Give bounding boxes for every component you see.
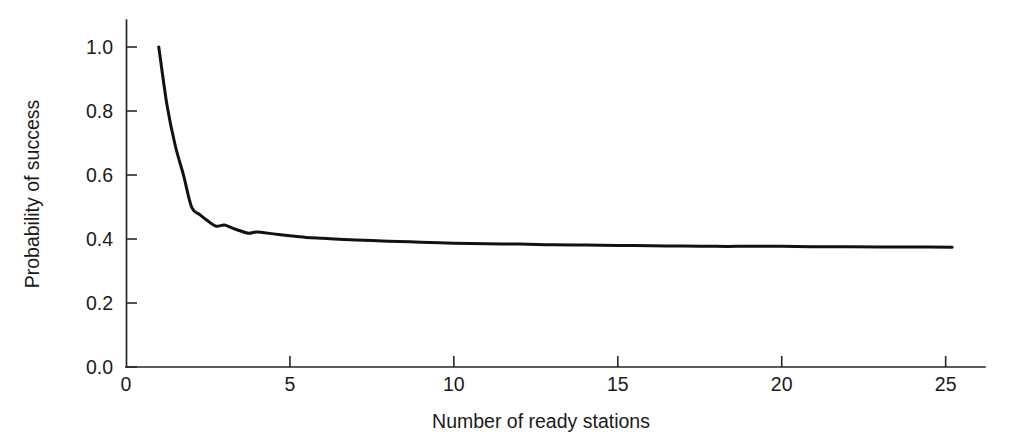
data-series-line — [159, 47, 952, 247]
y-tick-label: 0.0 — [86, 356, 113, 378]
x-axis-title: Number of ready stations — [432, 410, 650, 432]
x-tick-label: 20 — [771, 373, 793, 395]
x-axis-ticks: 0510152025 — [121, 356, 957, 395]
x-tick-label: 0 — [121, 373, 132, 395]
y-axis-title: Probability of success — [21, 99, 43, 288]
y-tick-label: 0.4 — [86, 228, 113, 250]
figure-container: 0.00.20.40.60.81.0 0510152025 Number of … — [0, 0, 1033, 445]
x-tick-label: 15 — [607, 373, 629, 395]
y-tick-label: 0.8 — [86, 100, 113, 122]
y-tick-label: 1.0 — [86, 36, 113, 58]
x-tick-label: 10 — [443, 373, 465, 395]
y-tick-label: 0.2 — [86, 292, 113, 314]
x-tick-label: 5 — [285, 373, 296, 395]
y-axis-ticks: 0.00.20.40.60.81.0 — [86, 36, 137, 378]
y-tick-label: 0.6 — [86, 164, 113, 186]
probability-of-success-chart: 0.00.20.40.60.81.0 0510152025 Number of … — [0, 0, 1033, 445]
x-tick-label: 25 — [935, 373, 957, 395]
